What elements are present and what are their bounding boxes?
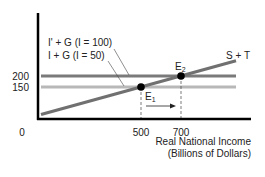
x-tick-label-0: 0	[19, 127, 25, 138]
equilibrium-point-0	[137, 83, 145, 91]
x-axis-units: (Billions of Dollars)	[168, 148, 251, 159]
y-tick-label-1: 200	[12, 71, 29, 82]
income-expenditure-chart: E1E2 1502000500700 I' + G (I = 100) I + …	[0, 0, 265, 177]
leader-line-i-plus-g	[108, 61, 124, 86]
x-tick-label-1: 500	[133, 127, 150, 138]
series-label-s-plus-t: S + T	[226, 50, 250, 61]
shift-arrow-head	[170, 104, 176, 109]
x-axis-title: Real National Income	[155, 136, 251, 147]
leader-line-i-prime-plus-g	[114, 49, 129, 75]
y-tick-label-0: 150	[12, 82, 29, 93]
equilibrium-subscript-0: 1	[152, 96, 156, 103]
equilibrium-label-1: E2	[175, 61, 186, 73]
series-label-i-plus-g: I + G (I = 50)	[48, 50, 105, 61]
equilibrium-label-0: E1	[145, 91, 156, 103]
series-label-i-prime-plus-g: I' + G (I = 100)	[48, 37, 112, 48]
equilibrium-subscript-1: 2	[182, 66, 186, 73]
equilibrium-point-1	[177, 72, 185, 80]
